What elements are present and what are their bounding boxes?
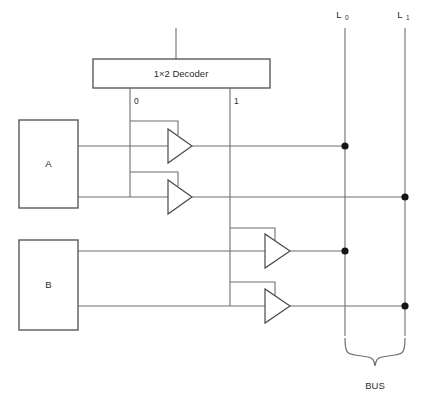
buffer-a-to-l1-triangle xyxy=(168,180,192,214)
circuit-diagram-canvas: 1×2 Decoder 0 1 A B L 0 L 1 BUS xyxy=(0,0,427,404)
bus-bracket-label: BUS xyxy=(365,380,385,391)
bus-line-l0-subscript: 0 xyxy=(345,14,349,21)
circuit-diagram-svg: 1×2 Decoder 0 1 A B L 0 L 1 BUS xyxy=(0,0,427,404)
junction-dot-b-l1 xyxy=(401,302,408,309)
bus-bracket-shape xyxy=(345,338,405,366)
decoder-label: 1×2 Decoder xyxy=(154,68,209,79)
buffer-b-to-l1-triangle xyxy=(265,289,290,323)
register-a-label: A xyxy=(45,158,52,169)
decoder-output-1-label: 1 xyxy=(234,96,239,106)
bus-line-l1-label: L xyxy=(397,9,402,20)
bus-line-l0-label: L xyxy=(336,9,341,20)
buffer-b-to-l0-triangle xyxy=(265,234,290,268)
register-b-label: B xyxy=(45,279,51,290)
junction-dot-b-l0 xyxy=(341,247,348,254)
buffer-a-to-l0-triangle xyxy=(168,129,192,163)
junction-dot-a-l0 xyxy=(341,142,348,149)
bus-line-l1-subscript: 1 xyxy=(406,14,410,21)
decoder-output-0-label: 0 xyxy=(134,96,139,106)
junction-dot-a-l1 xyxy=(401,193,408,200)
